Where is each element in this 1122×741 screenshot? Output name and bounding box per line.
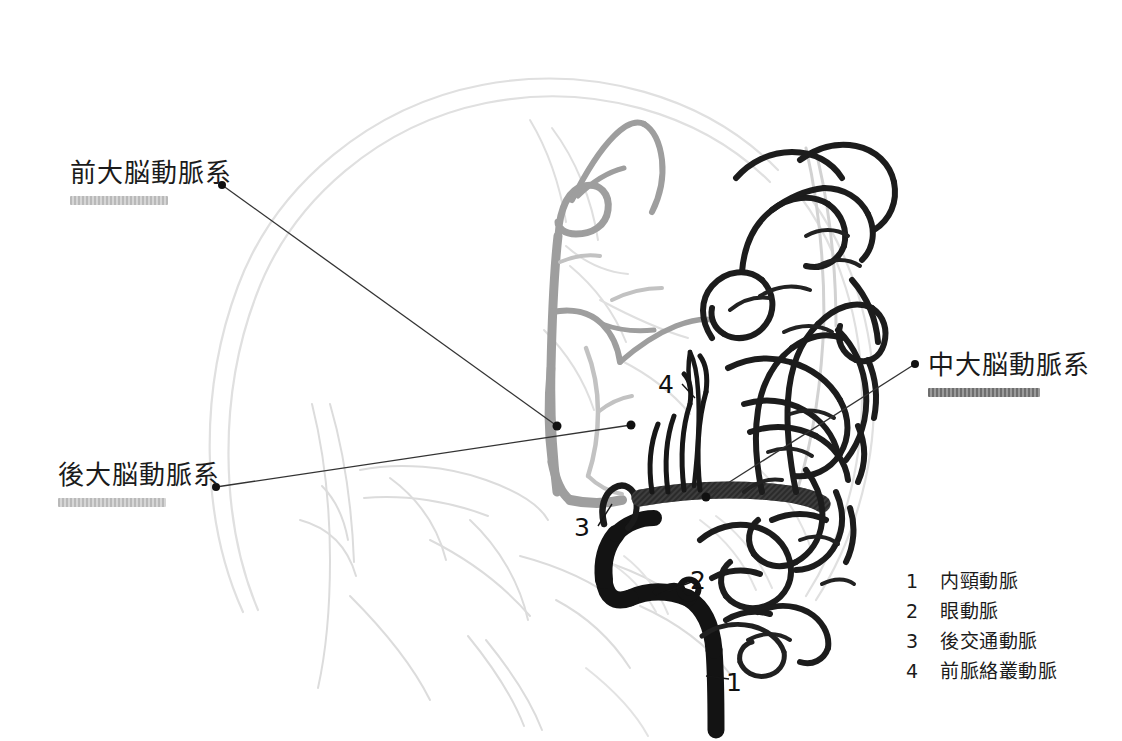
legend-item-3: 3 後交通動脈	[906, 632, 1057, 651]
callout-label-middle-cerebral-text: 中大脳動脈系	[928, 352, 1090, 378]
figure-marker-4: 4	[658, 372, 674, 397]
legend: 1 内頸動脈 2 眼動脈 3 後交通動脈 4 前脈絡叢動脈	[906, 572, 1057, 692]
legend-name-3: 後交通動脈	[940, 632, 1038, 651]
callout-dot-mca-target	[702, 493, 711, 502]
legend-name-1: 内頸動脈	[940, 572, 1018, 591]
callout-subtitle-middle-cerebral-redacted	[928, 388, 1040, 397]
callout-label-posterior-cerebral: 後大脳動脈系	[58, 462, 220, 507]
legend-number-2: 2	[906, 602, 940, 621]
callout-label-anterior-cerebral: 前大脳動脈系	[70, 160, 232, 205]
callout-dot-pca-target	[627, 421, 636, 430]
legend-item-2: 2 眼動脈	[906, 602, 1057, 621]
figure-marker-3: 3	[574, 515, 590, 540]
anterior-choroidal-artery-group	[689, 352, 699, 486]
callout-label-anterior-cerebral-text: 前大脳動脈系	[70, 160, 232, 186]
legend-number-1: 1	[906, 572, 940, 591]
skull-outline-group	[210, 79, 874, 612]
legend-name-4: 前脈絡叢動脈	[940, 662, 1057, 681]
callout-label-posterior-cerebral-text: 後大脳動脈系	[58, 462, 220, 488]
anterior-cerebral-artery-group	[549, 123, 712, 504]
legend-number-3: 3	[906, 632, 940, 651]
legend-item-4: 4 前脈絡叢動脈	[906, 662, 1057, 681]
callout-subtitle-posterior-cerebral-redacted	[58, 498, 166, 507]
callout-label-middle-cerebral: 中大脳動脈系	[928, 352, 1090, 397]
angiogram-figure: 前大脳動脈系 後大脳動脈系 中大脳動脈系 1 2 3 4 1 内頸動脈 2 眼動…	[0, 0, 1122, 741]
leader-line-pca	[216, 425, 631, 487]
figure-marker-2: 2	[690, 568, 706, 593]
callout-subtitle-anterior-cerebral-redacted	[70, 196, 168, 205]
legend-name-2: 眼動脈	[940, 602, 999, 621]
figure-marker-1: 1	[726, 670, 742, 695]
leader-line-aca	[222, 185, 557, 426]
callout-dot-aca-target	[553, 422, 562, 431]
legend-number-4: 4	[906, 662, 940, 681]
legend-item-1: 1 内頸動脈	[906, 572, 1057, 591]
middle-cerebral-branches-group	[700, 145, 895, 663]
callout-dot-mca-label	[911, 360, 919, 368]
